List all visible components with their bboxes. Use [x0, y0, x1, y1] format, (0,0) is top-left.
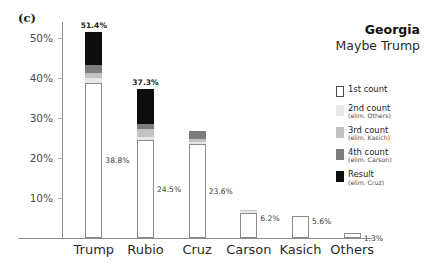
x-axis-label-others: Others	[330, 242, 374, 257]
stacked-bar	[292, 22, 309, 238]
first-count-label: 6.2%	[260, 214, 279, 223]
bar-segment	[85, 73, 102, 79]
bar-segment	[189, 139, 206, 141]
stacked-bar	[240, 22, 257, 238]
bar-segment	[85, 83, 102, 238]
x-axis-label-kasich: Kasich	[279, 242, 321, 257]
first-count-label: 38.8%	[105, 156, 129, 165]
x-axis-label-carson: Carson	[226, 242, 271, 257]
x-axis	[18, 238, 372, 239]
bar-segment	[344, 233, 361, 238]
bar-segment	[240, 211, 257, 213]
y-axis-label: 10%	[30, 192, 53, 204]
y-axis-tick	[58, 118, 63, 119]
bar-segment	[240, 213, 257, 238]
bar-total-label: 51.4%	[81, 21, 107, 30]
x-axis-label-cruz: Cruz	[182, 242, 212, 257]
y-axis-tick	[58, 158, 63, 159]
bar-segment	[189, 142, 206, 144]
bar-segment	[137, 137, 154, 140]
bar-segment	[292, 216, 309, 238]
stacked-bar	[189, 22, 206, 238]
bar-segment	[85, 65, 102, 73]
bar-group[interactable]: 37.3%	[137, 22, 154, 238]
chart-panel: (c) Georgia Maybe Trump 1st count2nd cou…	[0, 0, 436, 277]
first-count-label: 23.6%	[209, 187, 233, 196]
bar-group[interactable]: 51.4%	[85, 22, 102, 238]
bar-segment	[85, 32, 102, 64]
first-count-label: 5.6%	[312, 217, 331, 226]
bar-segment	[240, 210, 257, 212]
bar-group[interactable]	[240, 22, 257, 238]
stacked-bar	[137, 22, 154, 238]
y-axis-tick	[58, 78, 63, 79]
bar-group[interactable]	[292, 22, 309, 238]
y-axis-label: 20%	[30, 152, 53, 164]
bar-group[interactable]	[344, 22, 361, 238]
bar-segment	[85, 78, 102, 82]
x-axis-label-trump: Trump	[74, 242, 115, 257]
y-axis-tick	[58, 38, 63, 39]
stacked-bar	[344, 22, 361, 238]
bar-segment	[137, 89, 154, 124]
stacked-bar	[85, 22, 102, 238]
panel-label: (c)	[18, 11, 36, 25]
bar-segment	[137, 129, 154, 137]
bar-total-label: 37.3%	[132, 78, 158, 87]
y-axis-tick	[58, 198, 63, 199]
y-axis-label: 40%	[30, 72, 53, 84]
y-axis-label: 30%	[30, 112, 53, 124]
y-axis-label: 50%	[30, 32, 53, 44]
bar-segment	[189, 131, 206, 139]
bar-segment	[189, 144, 206, 238]
plot-area: 10%20%30%40%50%51.4%38.8%Trump37.3%24.5%…	[62, 22, 372, 238]
bar-segment	[137, 140, 154, 238]
bar-segment	[137, 124, 154, 129]
y-axis	[62, 22, 63, 238]
first-count-label: 24.5%	[157, 185, 181, 194]
x-axis-label-rubio: Rubio	[127, 242, 164, 257]
bar-group[interactable]	[189, 22, 206, 238]
